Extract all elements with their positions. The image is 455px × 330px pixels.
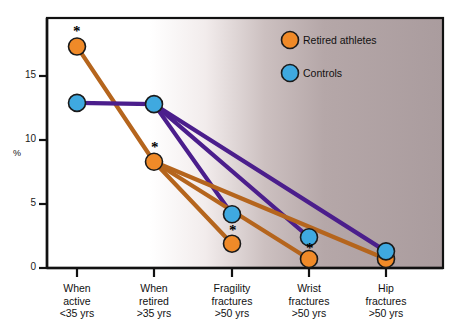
x-tick-label-when-retired: When retired >35 yrs xyxy=(111,282,197,320)
x-tick-line-1: When xyxy=(34,282,120,295)
x-tick-label-wrist-fractures: Wrist fractures >50 yrs xyxy=(266,282,352,320)
data-point-controls-1[interactable] xyxy=(146,96,163,113)
x-tick-line-3: >50 yrs xyxy=(266,307,352,320)
x-tick-label-fragility-fractures: Fragility fractures >50 yrs xyxy=(189,282,275,320)
x-tick-line-1: Fragility xyxy=(189,282,275,295)
y-tick-label-0: 0 xyxy=(16,261,36,272)
legend-label-controls: Controls xyxy=(303,67,342,79)
x-tick-label-hip-fractures: Hip fractures >50 yrs xyxy=(343,282,429,320)
legend-marker-retired-athletes xyxy=(282,32,299,49)
x-tick-line-3: >35 yrs xyxy=(111,307,197,320)
significance-star-fragility-orange: * xyxy=(229,225,237,235)
x-tick-line-2: active xyxy=(34,295,120,308)
data-point-retired-athletes-0[interactable] xyxy=(69,38,86,55)
x-tick-line-1: Wrist xyxy=(266,282,352,295)
data-point-controls-2[interactable] xyxy=(224,206,241,223)
x-tick-line-1: When xyxy=(111,282,197,295)
y-tick-label-5: 5 xyxy=(16,197,36,208)
x-tick-line-3: >50 yrs xyxy=(343,307,429,320)
y-axis-title: % xyxy=(13,148,21,158)
x-tick-line-3: >50 yrs xyxy=(189,307,275,320)
significance-star-wrist-orange: * xyxy=(306,243,314,253)
plot-background xyxy=(47,18,443,268)
data-point-retired-athletes-1[interactable] xyxy=(146,153,163,170)
x-tick-line-1: Hip xyxy=(343,282,429,295)
x-tick-line-2: fractures xyxy=(266,295,352,308)
significance-star-retired-orange: * xyxy=(151,142,159,152)
data-point-controls-4[interactable] xyxy=(378,243,395,260)
chart-figure: % 15 10 5 0 When active <35 yrs When ret… xyxy=(0,0,455,330)
x-tick-label-when-active: When active <35 yrs xyxy=(34,282,120,320)
x-tick-line-2: retired xyxy=(111,295,197,308)
x-tick-line-3: <35 yrs xyxy=(34,307,120,320)
y-tick-label-10: 10 xyxy=(16,133,36,144)
chart-canvas xyxy=(0,0,455,330)
data-point-controls-0[interactable] xyxy=(69,94,86,111)
significance-star-active-orange: * xyxy=(73,26,81,36)
line-controls-baseline xyxy=(77,103,154,104)
legend-label-retired-athletes: Retired athletes xyxy=(303,34,377,46)
x-tick-line-2: fractures xyxy=(189,295,275,308)
x-axis-ticks xyxy=(77,268,386,277)
x-tick-line-2: fractures xyxy=(343,295,429,308)
legend-marker-controls xyxy=(282,65,299,82)
y-tick-label-15: 15 xyxy=(16,69,36,80)
